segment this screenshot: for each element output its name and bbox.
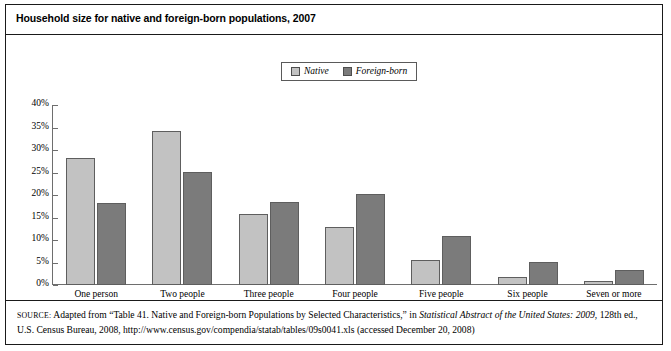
source-label: SOURCE: <box>17 311 51 320</box>
bar-group <box>484 105 570 285</box>
y-axis-tick-label: 25% <box>32 166 49 176</box>
x-axis-label: Six people <box>484 289 570 299</box>
bar-foreign-born[interactable] <box>183 172 212 285</box>
bar-group <box>398 105 484 285</box>
x-axis-label: Four people <box>312 289 398 299</box>
y-axis-tick-label: 10% <box>32 233 49 243</box>
x-axis-category-labels: One personTwo peopleThree peopleFour peo… <box>53 289 657 299</box>
legend-swatch-icon <box>291 67 300 76</box>
y-axis-tick-label: 5% <box>36 256 49 266</box>
y-axis-tick-label: 40% <box>32 98 49 108</box>
source-publication-title: Statistical Abstract of the United State… <box>419 309 595 320</box>
bar-foreign-born[interactable] <box>615 270 644 285</box>
chart-legend: Native Foreign-born <box>281 62 417 81</box>
y-axis-tick-label: 20% <box>32 188 49 198</box>
bar-native[interactable] <box>498 277 527 285</box>
x-axis-label: Seven or more <box>571 289 657 299</box>
bar-foreign-born[interactable] <box>270 202 299 285</box>
x-axis-label: Three people <box>226 289 312 299</box>
bar-native[interactable] <box>239 214 268 285</box>
bar-group <box>312 105 398 285</box>
bar-native[interactable] <box>66 158 95 285</box>
bar-foreign-born[interactable] <box>356 194 385 285</box>
bar-group <box>139 105 225 285</box>
legend-item-native: Native <box>291 66 329 76</box>
bar-group <box>53 105 139 285</box>
plot-area: 40%35%30%25%20%15%10%5%0% <box>52 105 657 285</box>
y-axis-tick-label: 15% <box>32 211 49 221</box>
source-note: SOURCE: Adapted from “Table 41. Native a… <box>17 308 647 336</box>
bar-native[interactable] <box>411 260 440 285</box>
bar-group <box>571 105 657 285</box>
title-band: Household size for native and foreign-bo… <box>6 5 662 35</box>
legend-label: Foreign-born <box>356 66 407 76</box>
bar-native[interactable] <box>152 131 181 285</box>
figure-panel: Household size for native and foreign-bo… <box>5 4 663 345</box>
page-title: Household size for native and foreign-bo… <box>16 12 316 24</box>
x-axis-label: Two people <box>139 289 225 299</box>
bar-groups <box>53 105 657 285</box>
y-axis-tick-mark <box>53 285 58 286</box>
bar-native[interactable] <box>584 281 613 285</box>
bar-group <box>226 105 312 285</box>
legend-label: Native <box>304 66 329 76</box>
legend-item-foreign-born: Foreign-born <box>343 66 407 76</box>
bar-foreign-born[interactable] <box>97 203 126 285</box>
source-text-part1: Adapted from “Table 41. Native and Forei… <box>51 309 419 320</box>
bar-foreign-born[interactable] <box>442 236 471 285</box>
y-axis-tick-label: 0% <box>36 278 49 288</box>
y-axis-tick-label: 35% <box>32 121 49 131</box>
source-band: SOURCE: Adapted from “Table 41. Native a… <box>6 300 662 344</box>
x-axis-label: One person <box>53 289 139 299</box>
y-axis-tick-label: 30% <box>32 143 49 153</box>
bar-foreign-born[interactable] <box>529 262 558 285</box>
x-axis-label: Five people <box>398 289 484 299</box>
bar-native[interactable] <box>325 227 354 286</box>
legend-swatch-icon <box>343 67 352 76</box>
